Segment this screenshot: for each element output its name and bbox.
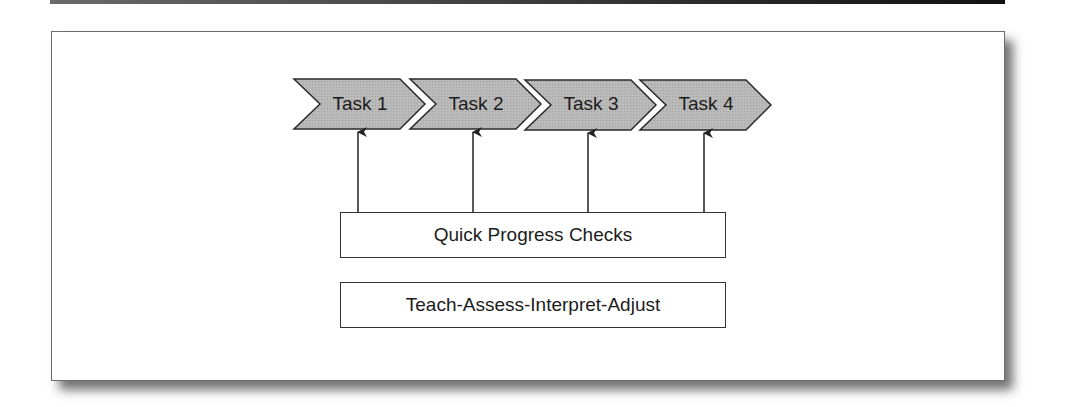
quick-progress-checks-box: Quick Progress Checks — [340, 212, 726, 258]
task-2-label: Task 2 — [426, 89, 526, 119]
teach-assess-interpret-adjust-box: Teach-Assess-Interpret-Adjust — [340, 282, 726, 328]
task-1-label: Task 1 — [310, 89, 410, 119]
task-3-label: Task 3 — [541, 89, 641, 119]
task-4-label: Task 4 — [656, 89, 756, 119]
diagram-canvas — [0, 0, 1068, 407]
